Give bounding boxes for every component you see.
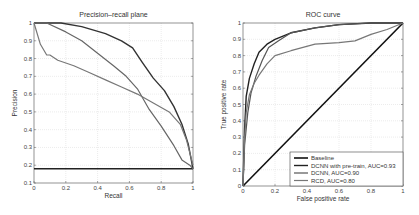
pr-y-tick-label: 0.4 bbox=[24, 127, 33, 133]
roc-y-tick-label: 0.5 bbox=[233, 102, 242, 108]
legend-entry-label: DCNN, AUC=0.90 bbox=[311, 170, 360, 176]
roc-y-axis-label: True positive rate bbox=[220, 79, 228, 129]
pr-x-axis-label: Recall bbox=[104, 192, 123, 199]
pr-y-tick-label: 0.7 bbox=[24, 73, 33, 79]
pr-y-tick-label: 0.2 bbox=[24, 162, 33, 168]
pr-y-tick-label: 0.1 bbox=[24, 180, 33, 186]
pr-x-tick-label: 0.4 bbox=[93, 185, 102, 191]
pr-y-tick-label: 0.6 bbox=[24, 91, 33, 97]
precision-recall-chart: Precision–recall plane Recall Precision … bbox=[11, 11, 195, 199]
legend-entry-label: Baseline bbox=[311, 155, 335, 161]
pr-y-tick-label: 0.5 bbox=[24, 109, 33, 115]
pr-chart-title: Precision–recall plane bbox=[79, 11, 148, 19]
pr-y-axis-label: Precision bbox=[11, 89, 18, 116]
roc-chart-title: ROC curve bbox=[306, 11, 341, 18]
roc-x-tick-label: 0.6 bbox=[335, 188, 344, 194]
roc-x-axis-label: False positive rate bbox=[297, 195, 350, 203]
roc-y-tick-label: 0.4 bbox=[233, 118, 242, 124]
pr-x-tick-label: 0.2 bbox=[62, 185, 71, 191]
pr-y-tick-label: 0.3 bbox=[24, 144, 33, 150]
roc-y-tick-label: 0.6 bbox=[233, 85, 242, 91]
roc-y-tick-label: 0.7 bbox=[233, 69, 242, 75]
pr-x-tick-label: 0.8 bbox=[157, 185, 166, 191]
roc-y-tick-label: 1 bbox=[238, 20, 242, 26]
roc-y-tick-label: 0.1 bbox=[233, 167, 242, 173]
pr-plot-area bbox=[34, 23, 193, 183]
roc-y-tick-label: 0.9 bbox=[233, 36, 242, 42]
roc-chart: ROC curve False positive rate True posit… bbox=[220, 11, 405, 203]
roc-y-tick-label: 0.8 bbox=[233, 53, 242, 59]
legend-entry-label: DCNN with pre-train, AUC=0.93 bbox=[311, 163, 396, 169]
roc-y-tick-label: 0.2 bbox=[233, 150, 242, 156]
roc-x-tick-label: 0.8 bbox=[367, 188, 376, 194]
pr-y-tick-label: 1 bbox=[29, 20, 33, 26]
roc-x-tick-label: 1 bbox=[401, 188, 405, 194]
roc-y-tick-label: 0.3 bbox=[233, 134, 242, 140]
roc-x-tick-label: 0 bbox=[241, 188, 245, 194]
figure: Precision–recall plane Recall Precision … bbox=[0, 0, 419, 215]
roc-x-tick-label: 0.2 bbox=[271, 188, 280, 194]
pr-x-tick-label: 1 bbox=[191, 185, 195, 191]
pr-x-tick-label: 0.6 bbox=[125, 185, 134, 191]
roc-x-tick-label: 0.4 bbox=[303, 188, 312, 194]
pr-y-tick-label: 0.9 bbox=[24, 38, 33, 44]
pr-y-tick-label: 0.8 bbox=[24, 56, 33, 62]
pr-x-tick-label: 0 bbox=[32, 185, 36, 191]
legend-entry-label: RCD, AUC=0.80 bbox=[311, 178, 356, 184]
